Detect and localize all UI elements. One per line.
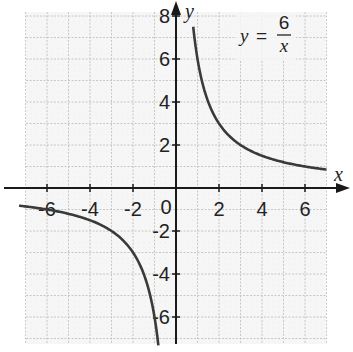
x-axis-label: x [333, 163, 343, 185]
y-tick-label: -2 [152, 220, 170, 242]
equation-label: y = 6 x [236, 12, 296, 60]
y-tick-label: 4 [159, 91, 170, 113]
origin-label: 0 [160, 196, 171, 218]
x-tick-label: -2 [124, 198, 142, 220]
y-tick-label: 6 [159, 48, 170, 70]
y-axis-label: y [183, 0, 194, 23]
y-tick-label: -4 [152, 263, 170, 285]
equation-numerator: 6 [279, 12, 290, 33]
hyperbola-chart: -6 -4 -2 0 2 4 6 8 6 4 2 -2 -4 -6 x y y … [0, 0, 353, 352]
equation-denominator: x [279, 35, 289, 56]
x-tick-label: 2 [213, 198, 224, 220]
equation-lhs: y [238, 25, 249, 46]
equation-equals: = [256, 25, 267, 46]
x-tick-label: 6 [299, 198, 310, 220]
y-axis-arrow-icon [171, 1, 181, 15]
y-tick-label: 2 [159, 134, 170, 156]
y-tick-label: 8 [159, 5, 170, 27]
x-tick-label: 4 [256, 198, 267, 220]
x-tick-label: -4 [81, 198, 99, 220]
